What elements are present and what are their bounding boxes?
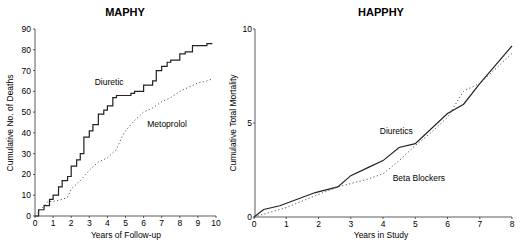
x-tick-label: 5 — [123, 218, 128, 228]
x-tick-label: 2 — [69, 218, 74, 228]
happhy-x-ticks: 012345678 — [252, 217, 515, 229]
y-tick-label: 60 — [22, 86, 32, 96]
x-tick-label: 2 — [316, 219, 321, 229]
x-tick-label: 9 — [196, 218, 201, 228]
happhy-chart: HAPPHY 0510 012345678 Years in Study Cum… — [228, 6, 515, 240]
x-tick-label: 4 — [105, 218, 110, 228]
y-tick-label: 5 — [247, 118, 252, 128]
x-tick-label: 3 — [348, 219, 353, 229]
diuretic-line — [35, 44, 212, 216]
x-tick-label: 0 — [33, 218, 38, 228]
x-tick-label: 10 — [211, 218, 221, 228]
y-tick-label: 90 — [22, 24, 32, 34]
y-tick-label: 0 — [26, 211, 31, 221]
x-tick-label: 7 — [477, 219, 482, 229]
maphy-chart: MAPHY 0102030405060708090 012345678910 Y… — [5, 6, 221, 240]
maphy-series — [35, 44, 212, 216]
y-tick-label: 10 — [243, 24, 253, 34]
x-tick-label: 4 — [381, 219, 386, 229]
x-tick-label: 8 — [177, 218, 182, 228]
x-tick-label: 5 — [413, 219, 418, 229]
happhy-y-label: Cumulative Total Mortality — [228, 74, 238, 172]
happhy-x-label: Years in Study — [354, 230, 409, 240]
annotation-metoprolol: Metoprolol — [147, 119, 187, 129]
y-tick-label: 20 — [22, 169, 32, 179]
x-tick-label: 8 — [510, 219, 515, 229]
happhy-y-ticks: 0510 — [243, 24, 255, 222]
y-tick-label: 50 — [22, 107, 32, 117]
y-tick-label: 30 — [22, 149, 32, 159]
maphy-y-label: Cumulative No. of Deaths — [5, 75, 15, 172]
annotation-diuretics: Diuretics — [380, 126, 413, 136]
y-tick-label: 70 — [22, 66, 32, 76]
x-tick-label: 1 — [51, 218, 56, 228]
x-tick-label: 6 — [445, 219, 450, 229]
x-tick-label: 0 — [252, 219, 257, 229]
y-tick-label: 80 — [22, 45, 32, 55]
maphy-title: MAPHY — [105, 6, 145, 18]
figure: MAPHY 0102030405060708090 012345678910 Y… — [0, 0, 522, 246]
x-tick-label: 7 — [159, 218, 164, 228]
metoprolol-line — [35, 79, 212, 216]
y-tick-label: 10 — [22, 190, 32, 200]
annotation-diuretic: Diuretic — [95, 77, 125, 87]
x-tick-label: 6 — [141, 218, 146, 228]
maphy-y-ticks: 0102030405060708090 — [22, 24, 35, 221]
y-tick-label: 40 — [22, 128, 32, 138]
happhy-title: HAPPHY — [358, 6, 405, 18]
annotation-beta-blockers: Beta Blockers — [393, 173, 445, 183]
maphy-x-label: Years of Follow-up — [91, 230, 161, 240]
x-tick-label: 3 — [87, 218, 92, 228]
maphy-annotations: DiureticMetoprolol — [95, 77, 187, 129]
maphy-x-ticks: 012345678910 — [33, 216, 221, 228]
x-tick-label: 1 — [284, 219, 289, 229]
